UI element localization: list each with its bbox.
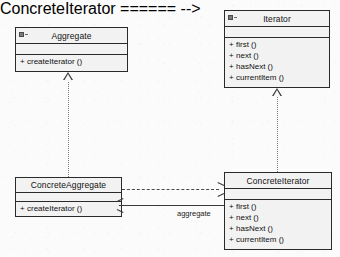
visibility-marker: + [229,201,236,212]
class-operations-iterator: +first () +next () +hasNext () +currentI… [225,37,329,85]
association-line-aggregate [119,205,224,206]
association-arrowhead [117,201,124,210]
operation-signature: createIterator () [27,57,82,66]
operation-signature: first () [236,202,256,211]
class-box-concreteaggregate[interactable]: ConcreteAggregate +createIterator () [15,177,122,217]
class-operations-concreteiterator: +first () +next () +hasNext () +currentI… [225,199,331,247]
visibility-marker: + [20,203,27,214]
operation-row: +hasNext () [225,223,331,234]
realization-triangle-iterator [272,88,283,96]
class-operations-aggregate: +createIterator () [16,54,127,69]
class-attributes-aggregate [16,43,127,54]
dependency-line-createiterator [122,189,219,190]
interface-icon [228,14,237,22]
visibility-marker: + [229,50,236,61]
operation-row: +currentItem () [225,234,331,245]
class-name-label: ConcreteIterator [246,176,309,186]
operation-row: +first () [225,201,331,212]
class-title-concreteaggregate: ConcreteAggregate [16,178,121,192]
operation-row: +createIterator () [16,56,127,67]
class-box-aggregate[interactable]: Aggregate +createIterator () [15,27,128,72]
operation-row: +currentItem () [225,72,329,83]
class-box-concreteiterator[interactable]: ConcreteIterator +first () +next () +has… [224,172,332,250]
visibility-marker: + [229,61,236,72]
class-title-aggregate: Aggregate [16,28,127,43]
operation-row: +createIterator () [16,203,121,214]
operation-row: +next () [225,212,331,223]
class-box-iterator[interactable]: Iterator +first () +next () +hasNext () … [224,10,330,88]
class-attributes-concreteaggregate [16,192,121,201]
operation-signature: next () [236,51,259,60]
interface-icon [19,31,28,39]
class-title-concreteiterator: ConcreteIterator [225,173,331,188]
visibility-marker: + [229,39,236,50]
operation-signature: currentItem () [236,235,284,244]
class-attributes-iterator [225,26,329,37]
operation-signature: first () [236,40,256,49]
operation-row: +next () [225,50,329,61]
dependency-arrowhead [217,185,224,194]
class-name-label: Iterator [263,14,291,24]
class-name-label: Aggregate [51,31,91,41]
visibility-marker: + [229,212,236,223]
visibility-marker: + [229,223,236,234]
operation-signature: currentItem () [236,73,284,82]
class-title-iterator: Iterator [225,11,329,26]
class-name-label: ConcreteAggregate [31,180,106,190]
realization-line-iterator [277,96,278,172]
operation-signature: createIterator () [27,204,82,213]
class-attributes-concreteiterator [225,188,331,199]
realization-line-aggregate [68,80,69,177]
realization-triangle-aggregate [63,72,74,80]
association-role-label: aggregate [177,209,211,218]
visibility-marker: + [229,72,236,83]
operation-signature: next () [236,213,259,222]
operation-signature: hasNext () [236,62,273,71]
uml-diagram-canvas: Aggregate +createIterator () Iterator +f… [0,0,340,257]
class-operations-concreteaggregate: +createIterator () [16,201,121,216]
operation-signature: hasNext () [236,224,273,233]
operation-row: +first () [225,39,329,50]
visibility-marker: + [20,56,27,67]
visibility-marker: + [229,234,236,245]
operation-row: +hasNext () [225,61,329,72]
